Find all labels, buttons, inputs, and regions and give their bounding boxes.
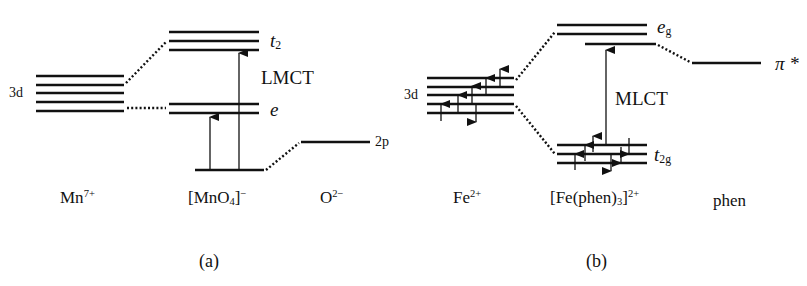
lmct-label: LMCT <box>261 68 314 87</box>
energy-level-diagram: 3d t2 LMCT e 2p Mn7+ [MnO4]− O2− (a) 3d … <box>0 0 807 286</box>
panel-a-diagram <box>36 32 370 170</box>
mn-3d-levels <box>36 76 124 111</box>
mno4-charge: − <box>241 188 247 199</box>
t2g-subscript: 2g <box>659 153 671 166</box>
t2-label: t2 <box>270 31 281 52</box>
t2g-label: t2g <box>654 145 671 166</box>
mno4-t2-levels <box>169 32 259 50</box>
mno4-e-levels <box>169 104 259 113</box>
complex-charge: 2+ <box>628 188 639 199</box>
caption-b: (b) <box>586 252 607 270</box>
species-o2: O2− <box>320 189 344 206</box>
mn-3d-label: 3d <box>9 86 23 100</box>
correlation-line <box>658 45 690 62</box>
caption-a: (a) <box>199 252 219 270</box>
species-mno4: [MnO4]− <box>188 189 246 208</box>
species-fe-phen3: [Fe(phen)3]2+ <box>550 189 639 208</box>
o-symbol: O <box>320 188 332 207</box>
o-charge: 2− <box>332 188 343 199</box>
e-label: e <box>270 100 278 119</box>
correlation-line <box>516 106 555 154</box>
complex-eg-levels <box>557 25 647 34</box>
diagram-canvas <box>0 0 807 286</box>
fe-3d-levels <box>427 78 514 113</box>
t2-subscript: 2 <box>275 39 281 52</box>
mlct-label: MLCT <box>615 89 668 108</box>
mno4-formula: [MnO <box>188 188 230 207</box>
complex-t2g-levels <box>557 145 647 163</box>
pi-star-label: π * <box>775 54 799 73</box>
species-mn7: Mn7+ <box>60 189 95 206</box>
eg-label: eg <box>657 17 671 38</box>
fe-3d-label: 3d <box>404 88 418 102</box>
mn-charge: 7+ <box>84 188 95 199</box>
correlation-line <box>266 143 299 170</box>
o-2p-label: 2p <box>375 135 389 149</box>
eg-subscript: g <box>665 25 671 38</box>
species-phen: phen <box>713 192 746 209</box>
fe-charge: 2+ <box>470 188 481 199</box>
correlation-line <box>516 32 555 80</box>
mn-symbol: Mn <box>60 188 84 207</box>
panel-b-diagram <box>427 25 761 171</box>
fe-symbol: Fe <box>453 188 470 207</box>
correlation-line <box>126 42 166 83</box>
complex-formula: [Fe(phen) <box>550 188 617 207</box>
species-fe2: Fe2+ <box>453 189 481 206</box>
